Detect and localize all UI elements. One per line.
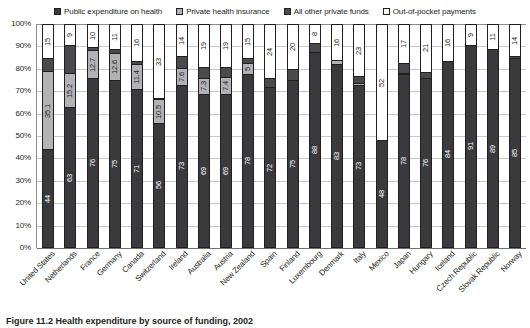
bar-column-slovak-republic[interactable]: 1189 [482,24,504,248]
bar-column-austria[interactable]: 197.469 [215,24,237,248]
bar-column-hungary[interactable]: 2176 [415,24,437,248]
bar-segment-phi: 11.4 [132,64,142,89]
bar-segment-oop: 11 [110,25,120,49]
bar-column-australia[interactable]: 197.369 [193,24,215,248]
bar-value-label: 19 [222,42,230,50]
bar-value-label: 11 [111,34,119,41]
bar-value-label: 75 [289,160,297,168]
bar-column-czech-republic[interactable]: 991 [459,24,481,248]
bar-column-norway[interactable]: 1485 [504,24,526,248]
y-tick-label-20: 20% [16,199,31,207]
stacked-bar[interactable]: 2373 [353,24,365,248]
bar-column-switzerland[interactable]: 3310.556 [148,24,170,248]
stacked-bar[interactable]: 2472 [264,24,276,248]
bar-segment-oop: 16 [332,25,342,60]
bar-segment-pub: 56 [154,123,164,247]
y-tick-label-80: 80% [16,65,31,73]
bar-segment-oop: 9 [65,25,75,45]
bar-value-label: 7.4 [222,81,230,91]
legend-swatch-all-other-private-funds [284,8,291,15]
bar-column-luxembourg[interactable]: 888 [304,24,326,248]
bar-value-label: 10 [89,32,97,40]
bar-value-label: 14 [178,37,186,45]
bar-column-netherlands[interactable]: 915.263 [59,24,81,248]
bar-segment-phi: 35.1 [43,71,53,149]
stacked-bar[interactable]: 1189 [487,24,499,248]
bar-segment-oop: 33 [154,25,164,98]
bar-value-label: 7.3 [200,81,208,91]
bar-value-label: 63 [67,174,75,182]
bar-column-spain[interactable]: 2472 [259,24,281,248]
bar-column-canada[interactable]: 1611.471 [126,24,148,248]
bar-value-label: 35.1 [44,104,52,118]
stacked-bar[interactable]: 1485 [509,24,521,248]
bar-column-mexico[interactable]: 5248 [371,24,393,248]
bar-value-label: 56 [156,181,164,189]
bar-column-denmark[interactable]: 1683 [326,24,348,248]
bar-segment-pub: 78 [399,74,409,247]
legend-label-private-health-insurance: Private health insurance [186,7,269,16]
bar-segment-pub: 88 [310,52,320,247]
bar-value-label: 83 [333,152,341,160]
stacked-bar[interactable]: 3310.556 [153,24,165,248]
legend-item-out-of-pocket-payments: Out-of-pocket payments [383,7,476,16]
bar-value-label: 17 [400,40,408,48]
legend-swatch-private-health-insurance [176,8,183,15]
stacked-bar[interactable]: 1778 [398,24,410,248]
stacked-bar[interactable]: 197.469 [220,24,232,248]
y-tick-label-90: 90% [16,42,31,50]
stacked-bar[interactable]: 1535.144 [42,24,54,248]
bar-column-germany[interactable]: 1112.675 [104,24,126,248]
bar-column-japan[interactable]: 1778 [393,24,415,248]
bar-segment-oop: 24 [265,25,275,78]
bar-column-finland[interactable]: 2075 [282,24,304,248]
legend-swatch-public-expenditure [54,8,61,15]
bar-segment-pub: 76 [88,78,98,247]
bar-column-united-states[interactable]: 1535.144 [37,24,59,248]
stacked-bar[interactable]: 1684 [442,24,454,248]
bar-segment-oop: 16 [443,25,453,61]
gridline-0 [37,248,526,249]
stacked-bar[interactable]: 915.263 [64,24,76,248]
stacked-bar[interactable]: 1012.776 [87,24,99,248]
bar-value-label: 76 [422,159,430,167]
stacked-bar[interactable]: 1112.675 [109,24,121,248]
bar-series-container: 1535.144915.2631012.7761112.6751611.4713… [37,24,526,248]
stacked-bar[interactable]: 888 [309,24,321,248]
figure-caption-text: Health expenditure by source of funding,… [56,316,254,326]
bar-column-new-zealand[interactable]: 15578 [237,24,259,248]
bar-segment-pub: 75 [288,80,298,247]
stacked-bar[interactable]: 2176 [420,24,432,248]
bar-segment-oop: 11 [488,25,498,49]
bar-value-label: 85 [511,149,519,157]
stacked-bar[interactable]: 1611.471 [131,24,143,248]
stacked-bar[interactable]: 5248 [376,24,388,248]
stacked-bar[interactable]: 991 [465,24,477,248]
stacked-bar[interactable]: 1683 [331,24,343,248]
bar-segment-other [177,56,187,68]
bar-segment-other [421,72,431,79]
bar-segment-oop: 16 [132,25,142,61]
bar-column-iceland[interactable]: 1684 [437,24,459,248]
bar-segment-pub: 73 [354,85,364,247]
bar-segment-pub: 69 [221,94,231,247]
figure-caption: Figure 11.2 Health expenditure by source… [6,316,526,327]
stacked-bar[interactable]: 197.369 [198,24,210,248]
bar-value-label: 72 [267,164,275,172]
bar-segment-other [288,69,298,80]
bar-value-label: 10.5 [156,105,164,119]
bar-segment-other [265,78,275,87]
bar-column-france[interactable]: 1012.776 [81,24,103,248]
stacked-bar[interactable]: 147.673 [176,24,188,248]
bar-column-italy[interactable]: 2373 [348,24,370,248]
bar-segment-other [354,76,364,83]
bar-segment-pub: 91 [466,45,476,247]
bar-segment-pub: 63 [65,107,75,247]
bar-segment-pub: 72 [265,87,275,247]
bar-value-label: 44 [44,195,52,203]
bar-column-ireland[interactable]: 147.673 [170,24,192,248]
stacked-bar[interactable]: 15578 [242,24,254,248]
stacked-bar[interactable]: 2075 [287,24,299,248]
bar-segment-phi: 7.4 [221,77,231,93]
bar-value-label: 14 [511,37,519,45]
